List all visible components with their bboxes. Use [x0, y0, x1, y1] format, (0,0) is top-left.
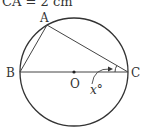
arrow-head-icon — [108, 67, 113, 72]
segment-ab — [20, 25, 47, 72]
center-point — [72, 70, 75, 73]
label-a: A — [39, 11, 49, 25]
angle-pointer-arrow — [92, 69, 110, 84]
label-b: B — [6, 66, 15, 80]
angle-label-x: x° — [90, 83, 103, 97]
angle-arc — [115, 66, 117, 73]
caption-text: CA = 2 cm — [2, 0, 73, 9]
geometry-diagram: CA = 2 cm A B C O x° — [0, 0, 145, 132]
label-c: C — [131, 66, 140, 80]
segment-ac — [47, 25, 128, 72]
label-o: O — [70, 77, 80, 91]
